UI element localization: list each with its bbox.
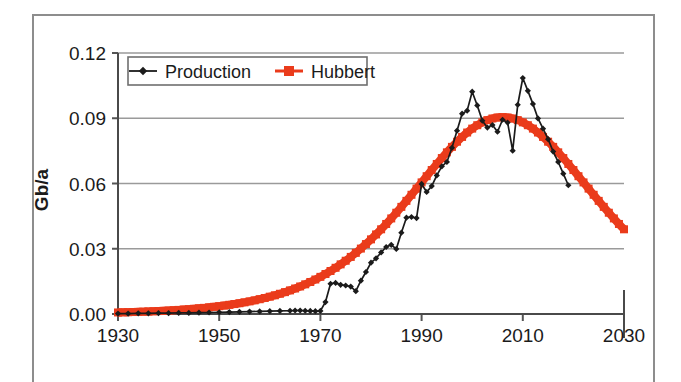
x-tick-labels-group: 193019501970199020102030 (97, 325, 645, 346)
legend-label: Production (165, 62, 251, 82)
x-tick-label: 1970 (299, 325, 341, 346)
y-tick-label: 0.12 (69, 43, 106, 64)
y-tick-label: 0.09 (69, 108, 106, 129)
y-tick-label: 0.06 (69, 174, 106, 195)
legend-label: Hubbert (311, 62, 375, 82)
y-tick-label: 0.03 (69, 239, 106, 260)
legend-square-icon (284, 66, 294, 76)
y-tick-labels-group: 0.000.030.060.090.12 (69, 43, 106, 325)
y-axis-title: Gb/a (31, 168, 52, 211)
x-tick-label: 1930 (97, 325, 139, 346)
x-tick-label: 2010 (502, 325, 544, 346)
chart-legend: ProductionHubbert (128, 57, 375, 85)
x-tick-label: 1950 (198, 325, 240, 346)
x-tick-label: 1990 (400, 325, 442, 346)
x-tick-marks-group (118, 314, 624, 321)
y-tick-label: 0.00 (69, 304, 106, 325)
hubbert-marker (620, 225, 628, 233)
x-tick-label: 2030 (603, 325, 645, 346)
